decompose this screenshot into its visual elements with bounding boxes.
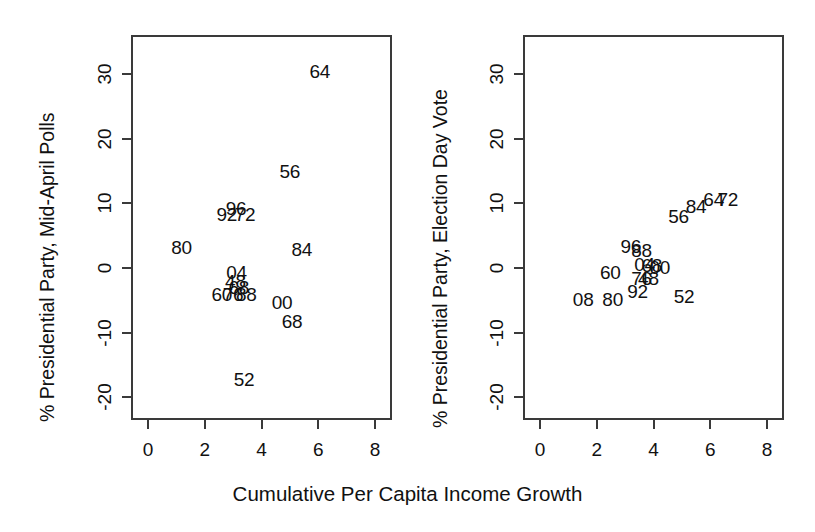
right-panel-y-axis-title: % Presidential Party, Election Day Vote xyxy=(431,89,451,428)
right-x-tick xyxy=(709,420,711,429)
data-point-label: 80 xyxy=(171,238,192,257)
left-y-tick-label: 20 xyxy=(95,128,114,149)
left-y-tick xyxy=(122,202,131,204)
right-y-tick-label: 10 xyxy=(487,193,506,214)
right-x-tick xyxy=(766,420,768,429)
right-plot-area xyxy=(523,35,784,420)
right-x-tick-label: 0 xyxy=(535,440,546,459)
x-axis-title: Cumulative Per Capita Income Growth xyxy=(0,484,815,505)
left-x-tick xyxy=(261,420,263,429)
left-y-tick xyxy=(122,138,131,140)
data-point-label: 56 xyxy=(668,207,689,226)
right-y-tick-label: -20 xyxy=(487,384,506,411)
left-x-tick-label: 0 xyxy=(143,440,154,459)
left-y-tick xyxy=(122,73,131,75)
right-y-tick-label: -10 xyxy=(487,319,506,346)
right-x-tick-label: 2 xyxy=(591,440,602,459)
left-panel-y-axis-title: % Presidential Party, Mid-April Polls xyxy=(38,112,58,422)
data-point-label: 84 xyxy=(686,196,707,215)
data-point-label: 52 xyxy=(234,370,255,389)
left-y-tick-label: -20 xyxy=(95,384,114,411)
left-plot-area xyxy=(131,35,392,420)
left-y-tick-label: -10 xyxy=(95,319,114,346)
left-x-tick-label: 2 xyxy=(199,440,210,459)
right-y-tick xyxy=(514,396,523,398)
left-x-tick-label: 4 xyxy=(256,440,267,459)
data-point-label: 68 xyxy=(282,312,303,331)
right-y-tick-label: 30 xyxy=(487,63,506,84)
left-x-tick-label: 8 xyxy=(370,440,381,459)
right-y-tick xyxy=(514,138,523,140)
data-point-label: 64 xyxy=(309,61,330,80)
data-point-label: 08 xyxy=(573,290,594,309)
right-x-tick xyxy=(653,420,655,429)
right-y-tick xyxy=(514,73,523,75)
data-point-label: 00 xyxy=(272,292,293,311)
left-x-tick xyxy=(374,420,376,429)
right-x-tick xyxy=(596,420,598,429)
data-point-label: 92 xyxy=(627,282,648,301)
left-y-tick-label: 10 xyxy=(95,193,114,214)
scatter-figure: % Presidential Party, Mid-April Polls 02… xyxy=(0,0,815,532)
right-y-tick xyxy=(514,202,523,204)
data-point-label: 72 xyxy=(235,204,256,223)
right-y-tick xyxy=(514,267,523,269)
data-point-label: 88 xyxy=(236,284,257,303)
right-x-tick xyxy=(539,420,541,429)
data-point-label: 60 xyxy=(600,262,621,281)
right-y-tick-label: 0 xyxy=(487,263,506,274)
data-point-label: 80 xyxy=(602,290,623,309)
data-point-label: 56 xyxy=(280,161,301,180)
left-x-tick xyxy=(204,420,206,429)
right-x-tick-label: 8 xyxy=(762,440,773,459)
right-x-tick-label: 6 xyxy=(705,440,716,459)
data-point-label: 84 xyxy=(292,240,313,259)
left-y-tick-label: 0 xyxy=(95,263,114,274)
right-y-tick xyxy=(514,332,523,334)
left-x-tick xyxy=(317,420,319,429)
left-y-tick xyxy=(122,267,131,269)
left-x-tick xyxy=(147,420,149,429)
left-y-tick xyxy=(122,396,131,398)
data-point-label: 52 xyxy=(674,286,695,305)
left-y-tick-label: 30 xyxy=(95,63,114,84)
right-x-tick-label: 4 xyxy=(648,440,659,459)
left-y-tick xyxy=(122,332,131,334)
left-x-tick-label: 6 xyxy=(313,440,324,459)
right-y-tick-label: 20 xyxy=(487,128,506,149)
